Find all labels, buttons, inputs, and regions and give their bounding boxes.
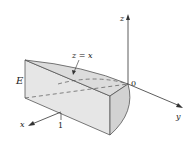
- x-axis-arrow-icon: [28, 121, 35, 126]
- x-axis: [32, 112, 61, 124]
- surface-label: z = x: [71, 51, 93, 60]
- solid-region-diagram: E z = x 0 z y x 1: [0, 0, 193, 145]
- x-axis-label: x: [20, 120, 25, 129]
- z-axis-arrow-icon: [126, 14, 130, 20]
- diagram-canvas: E z = x 0 z y x 1: [0, 0, 193, 145]
- x-tick-label: 1: [58, 121, 63, 130]
- y-axis-label: y: [175, 112, 181, 121]
- origin-label: 0: [131, 79, 136, 88]
- y-axis-arrow-icon: [176, 103, 183, 108]
- solid-label: E: [15, 75, 24, 86]
- z-axis-label: z: [119, 14, 125, 23]
